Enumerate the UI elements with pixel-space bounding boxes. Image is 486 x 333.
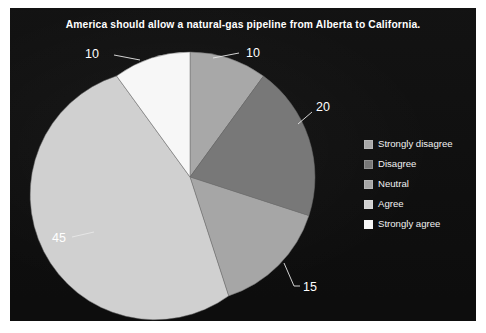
legend-item-label: Agree bbox=[378, 199, 404, 209]
chart-title: America should allow a natural-gas pipel… bbox=[10, 19, 476, 30]
legend-item-label: Neutral bbox=[378, 179, 409, 189]
data-label-agree: 45 bbox=[52, 231, 66, 245]
legend-swatch-icon bbox=[364, 220, 373, 229]
legend-swatch-icon bbox=[364, 200, 373, 209]
legend-swatch-icon bbox=[364, 140, 373, 149]
legend-item-label: Disagree bbox=[378, 159, 416, 169]
data-label-strongly-disagree: 10 bbox=[246, 46, 260, 60]
legend-item-neutral[interactable]: Neutral bbox=[364, 174, 453, 194]
legend-swatch-icon bbox=[364, 160, 373, 169]
legend-swatch-icon bbox=[364, 180, 373, 189]
leader-line-strongly-agree bbox=[114, 55, 140, 60]
legend-item-disagree[interactable]: Disagree bbox=[364, 154, 453, 174]
legend-item-label: Strongly agree bbox=[378, 219, 440, 229]
chart-panel: America should allow a natural-gas pipel… bbox=[10, 8, 476, 321]
chart-legend: Strongly disagree Disagree Neutral Agree… bbox=[364, 134, 453, 234]
legend-item-agree[interactable]: Agree bbox=[364, 194, 453, 214]
leader-line-neutral bbox=[284, 263, 300, 286]
legend-item-label: Strongly disagree bbox=[378, 139, 453, 149]
pie-slices bbox=[30, 52, 315, 320]
data-label-neutral: 15 bbox=[303, 280, 317, 294]
data-label-strongly-agree: 10 bbox=[85, 47, 99, 61]
data-label-disagree: 20 bbox=[316, 100, 330, 114]
legend-item-strongly-agree[interactable]: Strongly agree bbox=[364, 214, 453, 234]
legend-item-strongly-disagree[interactable]: Strongly disagree bbox=[364, 134, 453, 154]
